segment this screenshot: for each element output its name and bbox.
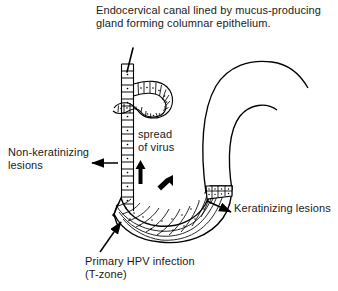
arrow-up-bold-icon [136, 160, 146, 184]
cervix-hpv-diagram: Endocervical canal lined by mucus-produc… [0, 0, 338, 291]
arrow-diagonal-up-icon [100, 222, 121, 252]
arrow-diagonal-bold-icon [158, 175, 174, 191]
cervix-outer-contour [203, 61, 308, 193]
caption-endocervical-canal: Endocervical canal lined by mucus-produc… [96, 4, 336, 30]
label-primary-hpv-infection: Primary HPV infection (T-zone) [85, 255, 235, 281]
columnar-epithelium-canal [122, 64, 134, 211]
label-keratinizing-lesions: Keratinizing lesions [234, 202, 338, 215]
label-spread-of-virus: spread of virus [138, 128, 198, 154]
leader-line-icon [127, 48, 133, 72]
label-non-keratinizing-lesions: Non-keratinizing lesions [8, 146, 108, 172]
squamous-upper-block [206, 186, 232, 199]
